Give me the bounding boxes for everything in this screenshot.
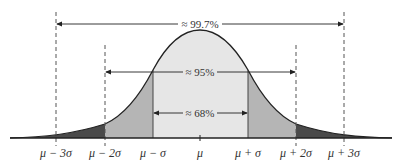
outer-tail-left <box>10 124 105 138</box>
axis-label-mu: μ <box>196 146 203 160</box>
label-99-7: ≈ 99.7% <box>181 18 218 30</box>
middle-band-right <box>248 70 296 138</box>
normal-distribution-diagram: ≈ 99.7% ≈ 95% ≈ 68% μ − 3σ μ − 2σ μ − σ … <box>0 0 402 162</box>
axis-label-mu-minus-2sigma: μ − 2σ <box>88 146 122 160</box>
axis-label-mu-minus-3sigma: μ − 3σ <box>39 146 73 160</box>
label-68: ≈ 68% <box>186 107 215 119</box>
axis-label-mu-plus-sigma: μ + σ <box>234 146 262 160</box>
inner-band <box>153 30 248 138</box>
middle-band-left <box>105 70 153 138</box>
axis-label-mu-plus-2sigma: μ + 2σ <box>279 146 313 160</box>
axis-label-mu-plus-3sigma: μ + 3σ <box>327 146 361 160</box>
label-95: ≈ 95% <box>186 66 215 78</box>
axis-label-mu-minus-sigma: μ − σ <box>139 146 167 160</box>
